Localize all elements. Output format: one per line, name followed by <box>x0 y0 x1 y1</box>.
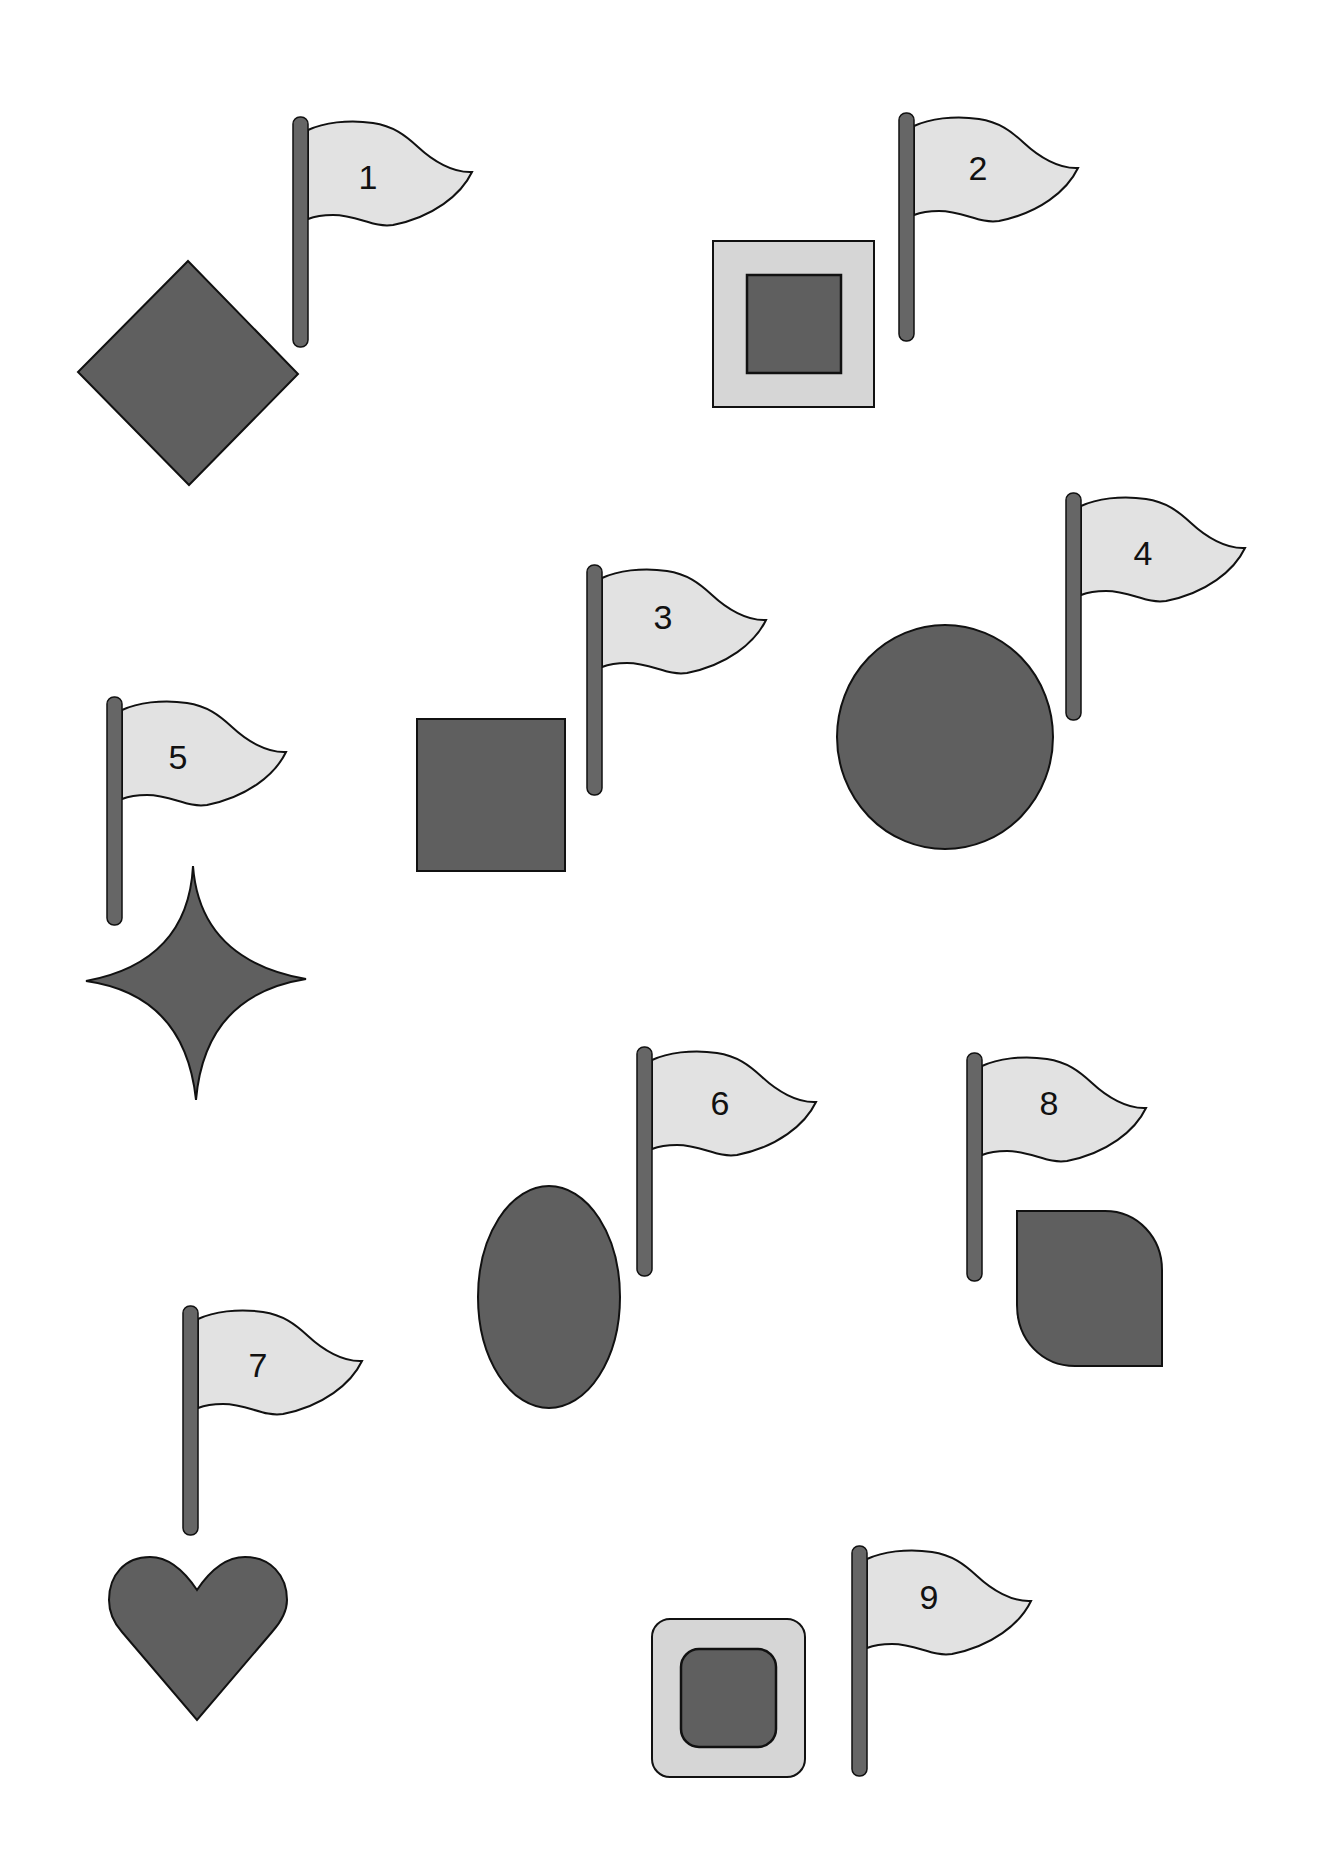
flag-4: 4 <box>1066 493 1245 720</box>
flag-3: 3 <box>587 565 766 795</box>
inner-square-shape <box>747 275 841 373</box>
flag-pole <box>899 113 914 341</box>
heart-shape <box>109 1557 287 1720</box>
flag-pole <box>852 1546 867 1776</box>
flag-number: 6 <box>711 1084 730 1122</box>
flag-2: 2 <box>899 113 1078 341</box>
flag-pole <box>587 565 602 795</box>
item-5: 5 <box>86 697 306 1100</box>
leaf-shape <box>1017 1211 1162 1366</box>
flag-pole <box>183 1306 198 1535</box>
square-shape <box>417 719 565 871</box>
item-8: 8 <box>967 1053 1162 1366</box>
item-3: 3 <box>417 565 766 871</box>
flag-pole <box>967 1053 982 1281</box>
flag-pole <box>637 1047 652 1276</box>
item-6: 6 <box>478 1047 816 1408</box>
item-4: 4 <box>837 493 1245 849</box>
flag-number: 4 <box>1134 534 1153 572</box>
flag-number: 9 <box>920 1578 939 1616</box>
flag-number: 1 <box>359 158 378 196</box>
inner-rounded-square-shape <box>681 1649 776 1747</box>
flag-6: 6 <box>637 1047 816 1276</box>
flag-number: 7 <box>249 1346 268 1384</box>
flag-pole <box>1066 493 1081 720</box>
flag-7: 7 <box>183 1306 362 1535</box>
item-9: 9 <box>652 1546 1031 1777</box>
item-2: 2 <box>713 113 1078 407</box>
flag-number: 8 <box>1040 1084 1059 1122</box>
circle-shape <box>837 625 1053 849</box>
flag-number: 2 <box>969 149 988 187</box>
flag-number: 3 <box>654 598 673 636</box>
flag-number: 5 <box>169 738 188 776</box>
diamond-shape <box>78 261 298 485</box>
flag-pole <box>107 697 122 925</box>
flag-9: 9 <box>852 1546 1031 1776</box>
item-1: 1 <box>78 117 472 485</box>
flag-1: 1 <box>293 117 472 347</box>
item-7: 7 <box>109 1306 362 1720</box>
flag-pole <box>293 117 308 347</box>
ellipse-shape <box>478 1186 620 1408</box>
flag-shape-diagram: 1 2 3 4 5 <box>0 0 1318 1863</box>
